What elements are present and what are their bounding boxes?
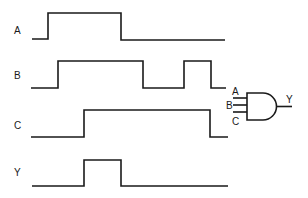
waveform-a — [32, 13, 225, 40]
and-gate: A B C Y — [226, 86, 293, 127]
gate-input-label-b: B — [226, 100, 233, 111]
signal-label-y: Y — [14, 167, 21, 178]
signal-label-a: A — [14, 25, 21, 36]
gate-input-label-c: C — [232, 116, 239, 127]
waveform-b — [31, 61, 226, 88]
timing-diagram: A B C Y A B C Y — [0, 0, 308, 198]
and-gate-body — [247, 93, 277, 120]
signal-label-b: B — [14, 70, 21, 81]
waveform-y — [32, 160, 228, 186]
gate-output-label-y: Y — [286, 94, 293, 105]
signal-label-c: C — [14, 120, 21, 131]
waveform-c — [31, 110, 228, 137]
gate-input-label-a: A — [232, 86, 239, 97]
